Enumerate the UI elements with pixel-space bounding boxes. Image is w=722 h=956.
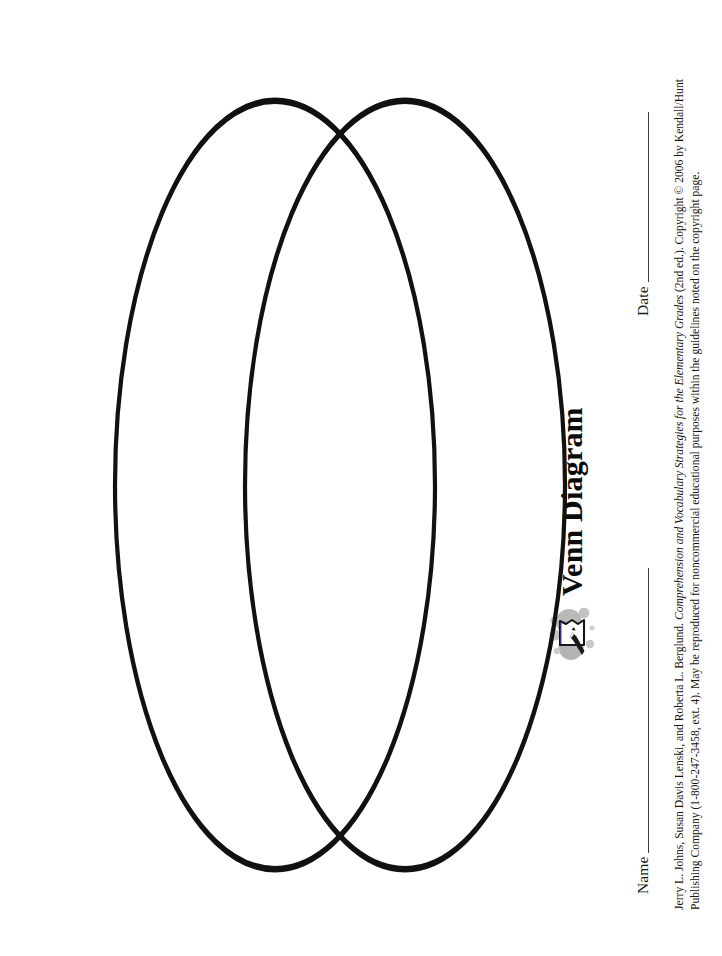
venn-circle-b bbox=[245, 101, 565, 869]
copyright-notice: Jerry L. Johns, Susan Davis Lenski, and … bbox=[672, 30, 705, 910]
copyright-line-plain: Jerry L. Johns, Susan Davis Lenski, and … bbox=[673, 620, 686, 910]
worksheet-page: Name Date bbox=[0, 0, 722, 956]
copyright-book-title: Comprehension and Vocabulary Strategies … bbox=[673, 295, 686, 620]
name-write-line[interactable] bbox=[647, 568, 649, 853]
name-field: Name bbox=[634, 568, 652, 894]
worksheet-sheet: Name Date bbox=[0, 0, 722, 956]
venn-diagram bbox=[109, 90, 571, 880]
date-write-line[interactable] bbox=[647, 112, 649, 282]
name-label: Name bbox=[634, 857, 652, 894]
date-field: Date bbox=[634, 112, 652, 316]
date-label: Date bbox=[634, 286, 652, 316]
